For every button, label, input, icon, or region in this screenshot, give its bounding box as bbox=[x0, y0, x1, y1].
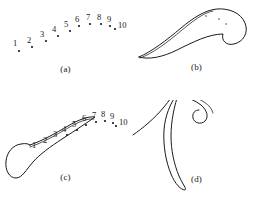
panel-b-caption: (b) bbox=[131, 62, 262, 72]
control-point-2-label: 2 bbox=[43, 135, 47, 145]
control-point-5-dot bbox=[76, 129, 78, 131]
stray-mark-2 bbox=[218, 18, 219, 19]
control-point-8-dot bbox=[100, 23, 102, 25]
curve-hook-d bbox=[179, 100, 207, 123]
control-point-4-dot bbox=[66, 134, 68, 136]
control-point-1-dot bbox=[18, 50, 20, 52]
control-point-5: 5 bbox=[64, 19, 71, 32]
control-point-8: 8 bbox=[101, 109, 106, 122]
control-point-6-label: 6 bbox=[75, 14, 79, 24]
control-point-7: 7 bbox=[92, 110, 97, 123]
control-point-7-dot bbox=[95, 121, 97, 123]
panel-d: (d) bbox=[131, 100, 262, 200]
control-point-6-dot bbox=[85, 124, 87, 126]
control-point-1-label: 1 bbox=[13, 38, 17, 48]
control-point-7-label: 7 bbox=[92, 110, 96, 120]
control-point-9: 9 bbox=[107, 14, 111, 27]
control-point-7: 7 bbox=[86, 12, 91, 25]
control-point-10-label: 10 bbox=[118, 20, 127, 30]
control-point-4-dot bbox=[57, 35, 59, 37]
control-point-9-dot bbox=[112, 122, 114, 124]
control-point-4: 4 bbox=[62, 124, 68, 136]
control-point-9-dot bbox=[109, 25, 111, 27]
control-point-8-label: 8 bbox=[97, 12, 101, 22]
control-point-3-label: 3 bbox=[53, 129, 57, 139]
figure-container: 1 2 3 4 5 bbox=[0, 0, 262, 201]
control-point-3-dot bbox=[45, 40, 47, 42]
control-point-5-label: 5 bbox=[72, 119, 76, 129]
control-point-5-dot bbox=[69, 30, 71, 32]
control-point-10: 10 bbox=[114, 20, 127, 30]
control-point-9-label: 9 bbox=[110, 111, 114, 121]
panel-a-caption: (a) bbox=[0, 64, 131, 74]
panel-b: (b) bbox=[131, 0, 262, 100]
control-point-7-label: 7 bbox=[86, 12, 90, 22]
panel-c: 1 2 3 4 5 6 7 bbox=[0, 100, 131, 200]
control-point-1-label: 1 bbox=[32, 140, 36, 150]
control-point-1: 1 bbox=[13, 38, 20, 52]
control-point-8-dot bbox=[104, 120, 106, 122]
control-point-1: 1 bbox=[32, 140, 36, 150]
panel-a-plot: 1 2 3 4 5 bbox=[0, 0, 131, 100]
control-point-10: 10 bbox=[115, 117, 128, 127]
control-point-6: 6 bbox=[75, 14, 80, 27]
control-point-2: 2 bbox=[27, 35, 33, 48]
control-point-2: 2 bbox=[43, 135, 47, 145]
panel-c-caption: (c) bbox=[0, 172, 131, 182]
panel-a: 1 2 3 4 5 bbox=[0, 0, 131, 100]
control-point-9-label: 9 bbox=[107, 14, 111, 24]
control-point-8: 8 bbox=[97, 12, 102, 25]
curve-outline-c bbox=[6, 117, 95, 178]
control-point-6-dot bbox=[78, 25, 80, 27]
control-point-2-dot bbox=[31, 46, 33, 48]
control-point-3-label: 3 bbox=[40, 29, 44, 39]
panel-c-plot: 1 2 3 4 5 6 7 bbox=[0, 100, 131, 200]
control-point-10-dot bbox=[114, 28, 116, 30]
control-point-4: 4 bbox=[52, 24, 59, 37]
panel-b-plot bbox=[131, 0, 262, 100]
curve-tail-stroke-d bbox=[133, 100, 176, 135]
control-point-3: 3 bbox=[53, 129, 57, 139]
control-point-6-label: 6 bbox=[82, 113, 86, 123]
control-point-2-label: 2 bbox=[27, 35, 31, 45]
control-point-5-label: 5 bbox=[64, 19, 68, 29]
control-point-7-dot bbox=[89, 23, 91, 25]
panel-d-caption: (d) bbox=[131, 174, 262, 184]
control-point-3: 3 bbox=[40, 29, 47, 42]
control-point-9: 9 bbox=[110, 111, 114, 124]
panel-d-plot bbox=[131, 100, 262, 200]
control-point-10-label: 10 bbox=[119, 117, 128, 127]
control-point-8-label: 8 bbox=[101, 109, 105, 119]
stray-mark-3 bbox=[225, 23, 226, 24]
control-point-10-dot bbox=[115, 125, 117, 127]
stray-mark-1 bbox=[205, 15, 206, 16]
control-point-4-label: 4 bbox=[52, 24, 57, 34]
